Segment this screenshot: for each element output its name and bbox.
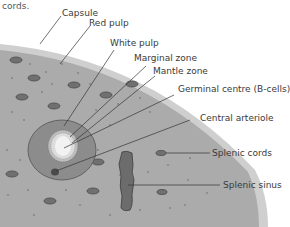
label-white-pulp: White pulp bbox=[110, 38, 159, 48]
splenic-sinus-shape bbox=[119, 151, 134, 210]
label-mantle-zone: Mantle zone bbox=[153, 66, 208, 76]
label-central-arteriole: Central arteriole bbox=[200, 113, 274, 123]
central-arteriole-shape bbox=[51, 169, 59, 176]
label-germinal-centre: Germinal centre (B-cells) bbox=[178, 84, 290, 94]
label-capsule: Capsule bbox=[62, 8, 98, 18]
label-splenic-cords: Splenic cords bbox=[212, 148, 272, 158]
label-marginal-zone: Marginal zone bbox=[134, 53, 198, 63]
label-red-pulp: Red pulp bbox=[89, 18, 129, 28]
label-splenic-sinus: Splenic sinus bbox=[223, 180, 282, 190]
spleen-diagram: Capsule Red pulp White pulp Marginal zon… bbox=[0, 0, 290, 227]
